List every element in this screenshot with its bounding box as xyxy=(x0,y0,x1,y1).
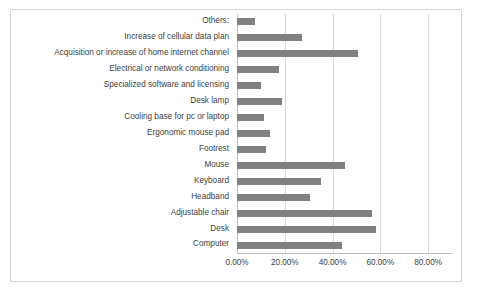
bar xyxy=(237,242,342,249)
category-axis-tick-label: Cooling base for pc or laptop xyxy=(124,113,229,121)
bar xyxy=(237,178,321,185)
chart-plot-wrapper: ComputerDeskAdjustable chairHeadbandKeyb… xyxy=(11,10,461,281)
category-axis-tick-label: Computer xyxy=(193,240,229,248)
category-axis-tick-label: Electrical or network conditioning xyxy=(109,65,229,73)
bar xyxy=(237,226,376,233)
category-axis-tick-label: Footrest xyxy=(199,145,229,153)
category-axis-tick-label: Specialized software and licensing xyxy=(104,81,229,89)
category-axis-tick-label: Increase of cellular data plan xyxy=(124,33,229,41)
value-axis-tick-label: 80.00% xyxy=(414,258,442,267)
gridline xyxy=(380,14,381,253)
bar xyxy=(237,162,345,169)
value-axis-tick-label: 0.00% xyxy=(225,258,248,267)
category-axis-tick-label: Ergonomic mouse pad xyxy=(147,129,229,137)
plot-area xyxy=(237,14,452,253)
category-axis-tick-label: Acquisition or increase of home internet… xyxy=(54,49,229,57)
value-axis-tick-label: 20.00% xyxy=(271,258,299,267)
chart-container: ComputerDeskAdjustable chairHeadbandKeyb… xyxy=(10,9,462,282)
category-axis-tick-label: Others: xyxy=(202,17,229,25)
bar xyxy=(237,194,310,201)
bar xyxy=(237,210,372,217)
category-axis-tick-label: Desk xyxy=(210,225,229,233)
bar xyxy=(237,18,255,25)
bar xyxy=(237,146,266,153)
bar xyxy=(237,50,358,57)
value-axis-labels: 0.00%20.00%40.00%60.00%80.00% xyxy=(237,258,452,272)
value-axis-tick-label: 40.00% xyxy=(319,258,347,267)
category-axis-labels: ComputerDeskAdjustable chairHeadbandKeyb… xyxy=(11,10,229,253)
gridline xyxy=(428,14,429,253)
bar xyxy=(237,114,264,121)
bar xyxy=(237,82,261,89)
bar xyxy=(237,98,282,105)
value-axis-tick-label: 60.00% xyxy=(366,258,394,267)
bar xyxy=(237,130,270,137)
category-axis-tick-label: Desk lamp xyxy=(190,97,229,105)
category-axis-tick-label: Adjustable chair xyxy=(171,209,229,217)
bar xyxy=(237,66,279,73)
category-axis-tick-label: Keyboard xyxy=(194,177,229,185)
category-axis-tick-label: Mouse xyxy=(204,161,229,169)
category-axis-tick-label: Headband xyxy=(191,193,229,201)
bar xyxy=(237,34,302,41)
x-axis-baseline xyxy=(237,253,452,254)
